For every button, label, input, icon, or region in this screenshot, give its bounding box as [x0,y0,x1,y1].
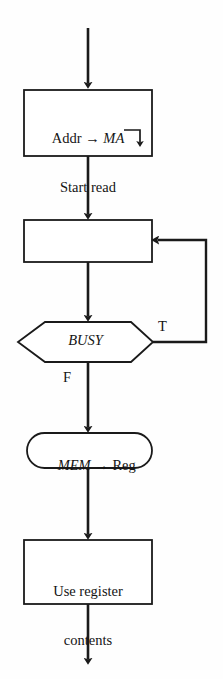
process-box-use-register [24,540,152,604]
flowchart-diagram: Addr → MA Start read BUSY MEM → Reg Use … [0,0,223,679]
feedback-loop-true [153,240,206,342]
flowchart-canvas [0,0,223,679]
terminal-box-mem-reg [27,433,152,468]
process-box-wait [24,220,152,262]
decision-hexagon-busy [18,322,153,362]
process-box-addr [24,90,152,156]
